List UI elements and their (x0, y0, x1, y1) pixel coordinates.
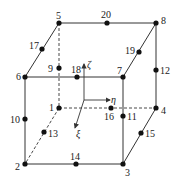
node-label-1: 1 (49, 102, 54, 113)
diagram-canvas: ζηξ 1234567891011121314151617181920 (0, 0, 180, 184)
xi-axis-label: ξ (76, 128, 81, 140)
node-label-19: 19 (125, 45, 135, 56)
node-label-20: 20 (101, 9, 111, 20)
node-10 (22, 116, 27, 121)
hexahedral-element-diagram: ζηξ 1234567891011121314151617181920 (0, 0, 180, 184)
node-label-14: 14 (70, 151, 80, 162)
eta-axis-label: η (111, 94, 116, 105)
node-label-4: 4 (161, 105, 166, 116)
node-11 (120, 113, 125, 118)
node-4 (153, 105, 158, 110)
xi-axis (75, 100, 84, 128)
node-13 (41, 129, 46, 134)
node-12 (153, 67, 158, 72)
node-20 (104, 20, 109, 25)
node-14 (73, 161, 78, 166)
node-label-2: 2 (15, 161, 20, 172)
node-label-18: 18 (71, 64, 81, 75)
node-8 (153, 20, 158, 25)
node-label-17: 17 (29, 40, 39, 51)
node-19 (136, 49, 141, 54)
node-16 (108, 105, 113, 110)
element-nodes (22, 20, 158, 166)
node-17 (39, 46, 44, 51)
node-label-8: 8 (161, 15, 166, 26)
node-5 (56, 20, 61, 25)
node-18 (74, 74, 79, 79)
node-label-16: 16 (104, 111, 114, 122)
node-15 (138, 130, 143, 135)
node-2 (22, 161, 27, 166)
element-edges (25, 23, 156, 164)
node-label-6: 6 (16, 71, 21, 82)
node-9 (56, 65, 61, 70)
node-3 (120, 161, 125, 166)
node-6 (22, 74, 27, 79)
local-axes: ζηξ (75, 59, 116, 140)
node-label-12: 12 (160, 65, 170, 76)
node-1 (56, 105, 61, 110)
node-label-3: 3 (125, 167, 130, 178)
zeta-axis-label: ζ (87, 59, 92, 71)
node-label-7: 7 (117, 65, 122, 76)
node-label-5: 5 (56, 10, 61, 21)
node-label-13: 13 (48, 128, 58, 139)
node-label-11: 11 (127, 111, 137, 122)
node-label-10: 10 (10, 114, 20, 125)
node-labels: 1234567891011121314151617181920 (10, 9, 170, 178)
node-label-9: 9 (48, 63, 53, 74)
node-label-15: 15 (145, 128, 155, 139)
